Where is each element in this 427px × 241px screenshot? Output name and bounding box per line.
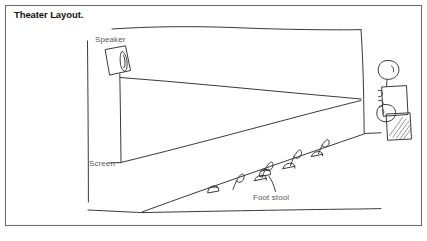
viewer-body bbox=[382, 86, 408, 117]
viewer-body-hatching bbox=[390, 118, 412, 140]
chair-seat-front bbox=[311, 154, 323, 156]
screen-left-edge bbox=[88, 41, 89, 202]
viewer-head-detail-icon bbox=[392, 66, 394, 72]
floor-line bbox=[88, 209, 381, 213]
speaker-driver-inner-icon bbox=[123, 56, 125, 68]
foot-stool-label: Foot stool bbox=[253, 193, 289, 202]
speaker-label: Speaker bbox=[95, 35, 126, 44]
figure-title: Theater Layout. bbox=[14, 9, 83, 20]
foot-stool-top bbox=[209, 187, 218, 188]
figure-border bbox=[6, 6, 422, 226]
viewer-armrest bbox=[378, 90, 382, 97]
screen-label: Screen bbox=[89, 159, 115, 168]
viewer-body bbox=[387, 113, 412, 140]
viewer-floor-base bbox=[365, 133, 382, 134]
foot-stool-leader-line bbox=[269, 177, 276, 192]
chair-seat-front bbox=[283, 166, 295, 169]
theater-layout-drawing bbox=[0, 0, 427, 241]
viewer-head bbox=[378, 60, 399, 79]
back-wall-line bbox=[361, 30, 364, 133]
room-ceiling-line bbox=[112, 27, 361, 30]
projection-beam-upper bbox=[120, 78, 361, 100]
chair-seat-front bbox=[254, 178, 266, 181]
screen-top-edge bbox=[120, 74, 121, 163]
theater-layout-figure: Theater Layout. Speaker Screen Foot stoo… bbox=[0, 0, 427, 241]
projection-beam-lower bbox=[121, 101, 361, 163]
